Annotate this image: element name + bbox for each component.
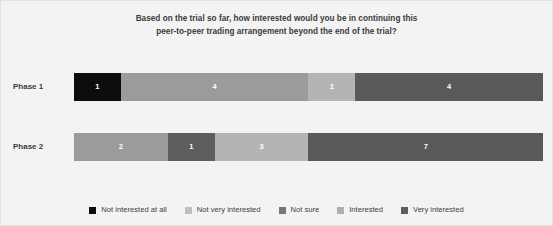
bar-segment-value: 1 <box>189 143 193 151</box>
bar-segment-interested[interactable]: 3 <box>215 133 309 161</box>
bar-segment-value: 2 <box>119 143 123 151</box>
bar-segment-not-very-interested[interactable]: 2 <box>74 133 168 161</box>
legend-item-not-interested-at-all[interactable]: Not interested at all <box>89 206 166 214</box>
chart-title-line-2: peer-to-peer trading arrangement beyond … <box>1 25 552 38</box>
legend-label: Very interested <box>413 206 464 214</box>
stacked-bar-phase-2: 0 2 1 3 7 <box>74 133 543 161</box>
bar-row-phase-2: Phase 2 0 2 1 3 7 <box>1 133 553 161</box>
bar-segment-not-interested-at-all[interactable]: 1 <box>74 73 121 101</box>
bar-segment-interested[interactable]: 1 <box>308 73 355 101</box>
chart-title-line-1: Based on the trial so far, how intereste… <box>1 12 552 25</box>
legend-label: Interested <box>349 206 383 214</box>
category-label-phase-2: Phase 2 <box>13 133 71 161</box>
plot-area: Phase 1 1 4 0 1 4 Phase <box>1 47 553 187</box>
bar-segment-very-interested[interactable]: 4 <box>355 73 543 101</box>
bar-segment-very-interested[interactable]: 7 <box>308 133 543 161</box>
legend-item-not-very-interested[interactable]: Not very interested <box>185 206 261 214</box>
bar-segment-value: 4 <box>213 83 217 91</box>
legend-swatch-icon <box>337 207 344 214</box>
bar-segment-not-very-interested[interactable]: 4 <box>121 73 309 101</box>
stacked-bar-phase-1: 1 4 0 1 4 <box>74 73 543 101</box>
bar-segment-value: 1 <box>95 83 99 91</box>
legend-swatch-icon <box>401 207 408 214</box>
legend-item-very-interested[interactable]: Very interested <box>401 206 464 214</box>
bar-segment-value: 7 <box>424 143 428 151</box>
legend-swatch-icon <box>185 207 192 214</box>
legend-label: Not sure <box>291 206 320 214</box>
chart-card: Based on the trial so far, how intereste… <box>0 0 553 226</box>
chart-title: Based on the trial so far, how intereste… <box>1 12 552 38</box>
category-label-phase-1: Phase 1 <box>13 73 71 101</box>
bar-segment-value: 4 <box>447 83 451 91</box>
chart-legend: Not interested at all Not very intereste… <box>1 206 552 214</box>
legend-item-not-sure[interactable]: Not sure <box>279 206 320 214</box>
legend-swatch-icon <box>279 207 286 214</box>
bar-row-phase-1: Phase 1 1 4 0 1 4 <box>1 73 553 101</box>
legend-swatch-icon <box>89 207 96 214</box>
legend-item-interested[interactable]: Interested <box>337 206 383 214</box>
legend-label: Not very interested <box>197 206 261 214</box>
bar-segment-value: 1 <box>330 83 334 91</box>
legend-label: Not interested at all <box>101 206 166 214</box>
bar-segment-not-sure[interactable]: 1 <box>168 133 215 161</box>
bar-segment-value: 3 <box>260 143 264 151</box>
